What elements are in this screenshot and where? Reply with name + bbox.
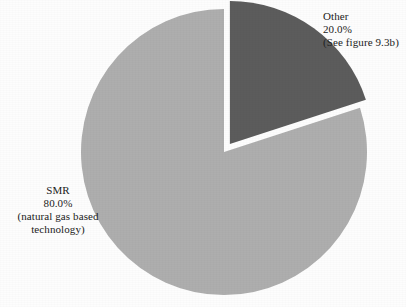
slice-label-smr-percent: 80.0% (6, 197, 110, 210)
slice-label-other: Other 20.0% (See figure 9.3b) (323, 10, 399, 49)
slice-label-other-note: (See figure 9.3b) (323, 36, 399, 49)
slice-label-other-name: Other (323, 10, 399, 23)
slice-label-smr: SMR 80.0% (natural gas based technology) (6, 184, 110, 236)
slice-label-smr-name: SMR (6, 184, 110, 197)
slice-label-other-percent: 20.0% (323, 23, 399, 36)
slice-label-smr-note-line2: technology) (6, 223, 110, 236)
pie-chart-figure: Other 20.0% (See figure 9.3b) SMR 80.0% … (0, 0, 406, 307)
slice-label-smr-note-line1: (natural gas based (6, 210, 110, 223)
